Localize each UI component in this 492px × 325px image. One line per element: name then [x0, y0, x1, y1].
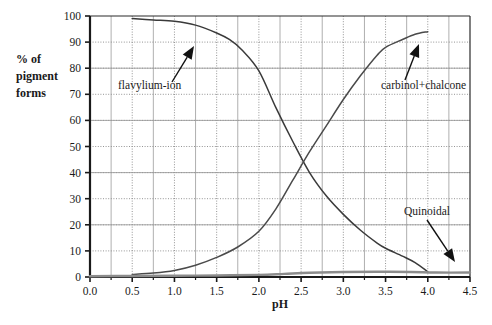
- x-tick-label: 1.5: [209, 285, 224, 297]
- y-tick-label: 40: [70, 167, 82, 179]
- x-tick-label: 2.0: [252, 285, 267, 297]
- y-tick-label: 50: [70, 141, 82, 153]
- y-tick-label: 10: [70, 245, 82, 257]
- y-tick-label: 70: [70, 88, 82, 100]
- x-tick-label: 3.5: [378, 285, 393, 297]
- x-tick-label: 3.0: [336, 285, 351, 297]
- pigment-forms-ph-chart: 0102030405060708090100 0.00.51.01.52.02.…: [0, 0, 492, 325]
- series-annotation-label: carbinol+chalcone: [381, 79, 466, 91]
- series-annotation-label: flavylium-ion: [118, 79, 181, 92]
- x-axis-title: pH: [272, 297, 289, 311]
- y-tick-label: 30: [70, 193, 82, 205]
- x-tick-label: 4.5: [463, 285, 478, 297]
- x-tick-label: 0.0: [83, 285, 98, 297]
- y-tick-label: 20: [70, 219, 82, 231]
- chart-page: 0102030405060708090100 0.00.51.01.52.02.…: [0, 0, 492, 325]
- y-tick-label: 0: [75, 271, 81, 283]
- series-annotation-label: Quinoidal: [404, 205, 450, 217]
- y-tick-label: 90: [70, 36, 82, 48]
- y-tick-label: 100: [64, 10, 82, 22]
- y-axis-title-line-1: % of: [16, 52, 42, 66]
- x-tick-label: 4.0: [421, 285, 436, 297]
- y-tick-label: 60: [70, 114, 82, 126]
- y-tick-label: 80: [70, 62, 82, 74]
- y-axis-title-line-2: pigment: [16, 69, 58, 83]
- x-tick-label: 0.5: [125, 285, 140, 297]
- y-axis-title-line-3: forms: [16, 86, 46, 100]
- x-tick-label: 1.0: [167, 285, 182, 297]
- x-tick-label: 2.5: [294, 285, 309, 297]
